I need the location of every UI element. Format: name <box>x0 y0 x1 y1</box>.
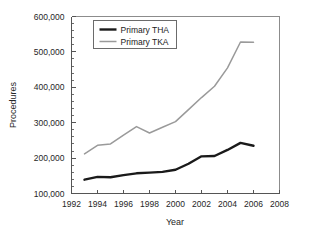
x-tick-label: 1998 <box>140 199 159 209</box>
x-tick-label: 2008 <box>270 199 289 209</box>
y-axis-tick-labels: 100,000200,000300,000400,000500,000600,0… <box>34 12 65 199</box>
y-tick-label: 500,000 <box>34 47 65 57</box>
x-axis-title: Year <box>166 217 184 227</box>
legend-label-primary-tka: Primary TKA <box>121 37 169 47</box>
x-tick-label: 1992 <box>62 199 81 209</box>
procedures-line-chart: 100,000200,000300,000400,000500,000600,0… <box>0 0 319 234</box>
x-tick-label: 1994 <box>88 199 107 209</box>
y-tick-label: 400,000 <box>34 82 65 92</box>
y-axis-title: Procedures <box>8 81 18 128</box>
series-line-primary-tha <box>85 143 254 180</box>
y-tick-label: 600,000 <box>34 12 65 22</box>
data-series-group <box>85 42 254 180</box>
y-tick-label: 100,000 <box>34 189 65 199</box>
chart-legend: Primary THAPrimary TKA <box>94 21 177 49</box>
chart-container: 100,000200,000300,000400,000500,000600,0… <box>0 0 319 234</box>
x-tick-label: 2006 <box>244 199 263 209</box>
series-line-primary-tka <box>85 42 254 154</box>
y-tick-label: 200,000 <box>34 153 65 163</box>
x-tick-label: 2000 <box>166 199 185 209</box>
x-tick-label: 2004 <box>218 199 237 209</box>
x-tick-label: 1996 <box>114 199 133 209</box>
x-axis-tick-labels: 199219941996199820002002200420062008 <box>62 199 289 209</box>
legend-label-primary-tha: Primary THA <box>121 25 170 35</box>
y-tick-label: 300,000 <box>34 118 65 128</box>
x-tick-label: 2002 <box>192 199 211 209</box>
